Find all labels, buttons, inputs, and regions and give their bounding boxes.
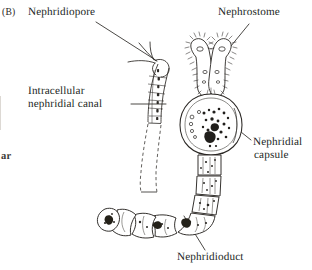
label-nephridiopore: Nephridiopore [28, 6, 95, 19]
nephridial-canal-dashed [140, 124, 161, 192]
label-intracellular-line2: nephridial canal [28, 98, 102, 111]
panel-letter: (B) [2, 6, 15, 17]
nephrostome-structure [185, 32, 237, 100]
label-intracellular-line1: Intracellular [28, 85, 85, 97]
nephridial-canal-joints [141, 123, 161, 192]
label-nephridioduct: Nephridioduct [177, 251, 244, 264]
nephridium-illustration [0, 0, 312, 270]
nephridial-capsule-structure [180, 94, 242, 155]
nephridiopore-structure [128, 42, 169, 77]
label-nephridial-capsule-line1: Nephridial [253, 136, 302, 148]
leader-nephridiopore [96, 22, 157, 61]
label-nephridial-capsule: Nephridial capsule [253, 136, 302, 161]
label-intracellular-nephridial-canal: Intracellular nephridial canal [28, 85, 102, 110]
label-nephrostome: Nephrostome [218, 6, 280, 19]
label-edge-fragment: ar [1, 151, 11, 164]
nephridium-figure: (B) Nephridiopore Intracellular nephridi… [0, 0, 312, 270]
label-nephridial-capsule-line2: capsule [253, 149, 302, 162]
